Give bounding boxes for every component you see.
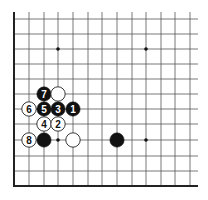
black-stone-icon (110, 133, 124, 147)
white-stone-icon (51, 87, 65, 101)
white-stone: 8 (22, 133, 36, 147)
star-point (56, 138, 60, 142)
move-number: 2 (55, 119, 61, 130)
go-board: 76531428 (0, 0, 208, 200)
move-number: 5 (41, 104, 47, 115)
move-number: 1 (70, 104, 76, 115)
star-point (144, 138, 148, 142)
black-stone: 7 (37, 87, 51, 101)
move-number: 8 (26, 135, 32, 146)
move-number: 6 (26, 104, 32, 115)
move-number: 3 (55, 104, 61, 115)
move-number: 7 (41, 89, 47, 100)
white-stone (66, 133, 80, 147)
black-stone-icon (37, 133, 51, 147)
star-point (144, 47, 148, 51)
white-stone (51, 87, 65, 101)
white-stone-icon (66, 133, 80, 147)
white-stone: 4 (37, 117, 51, 131)
black-stone (37, 133, 51, 147)
white-stone: 2 (51, 117, 65, 131)
black-stone: 3 (51, 102, 65, 116)
black-stone: 5 (37, 102, 51, 116)
star-point (56, 47, 60, 51)
black-stone: 1 (66, 102, 80, 116)
black-stone (110, 133, 124, 147)
white-stone: 6 (22, 102, 36, 116)
move-number: 4 (41, 119, 47, 130)
